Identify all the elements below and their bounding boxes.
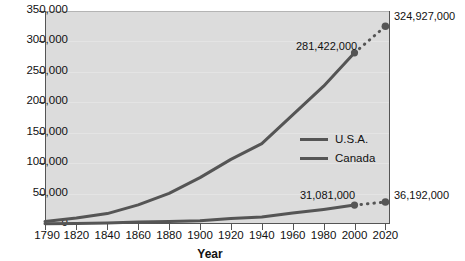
xtick-label-1920: 1920 bbox=[218, 229, 244, 241]
xtick-label-2020: 2020 bbox=[373, 229, 399, 241]
xtick-label-1900: 1900 bbox=[187, 229, 213, 241]
xtick-label-1940: 1940 bbox=[249, 229, 275, 241]
legend: U.S.A. Canada bbox=[300, 130, 375, 168]
annotation-usa-2020: 324,927,000 bbox=[394, 10, 455, 22]
xtick-label-1880: 1880 bbox=[156, 229, 182, 241]
annotation-canada-2020: 36,192,000 bbox=[394, 189, 449, 201]
legend-swatch-canada bbox=[300, 157, 328, 160]
ytick-label-250000: 250,000 bbox=[26, 64, 68, 76]
legend-item-usa: U.S.A. bbox=[300, 130, 375, 149]
ytick-label-50000: 50,000 bbox=[33, 186, 68, 198]
xtick-label-1820: 1820 bbox=[64, 229, 90, 241]
xtick-label-1960: 1960 bbox=[280, 229, 306, 241]
ytick-label-100000: 100,000 bbox=[26, 155, 68, 167]
annotation-canada-2000: 31,081,000 bbox=[300, 189, 355, 201]
gridline-350000 bbox=[46, 11, 389, 12]
legend-item-canada: Canada bbox=[300, 149, 375, 168]
xtick-label-1980: 1980 bbox=[311, 229, 337, 241]
ytick-label-300000: 300,000 bbox=[26, 33, 68, 45]
xtick-label-1860: 1860 bbox=[125, 229, 151, 241]
ytick-label-350000: 350,000 bbox=[26, 3, 68, 15]
x-axis-title: Year bbox=[0, 247, 420, 261]
xtick-label-1840: 1840 bbox=[95, 229, 121, 241]
gridline-250000 bbox=[46, 72, 389, 73]
xtick-label-1790: 1790 bbox=[34, 229, 60, 241]
annotation-usa-2000: 281,422,000 bbox=[296, 40, 357, 52]
ytick-label-150000: 150,000 bbox=[26, 125, 68, 137]
ytick-label-200000: 200,000 bbox=[26, 94, 68, 106]
legend-label-canada: Canada bbox=[335, 153, 375, 165]
population-growth-chart: 350,000 300,000 250,000 200,000 150,000 … bbox=[0, 0, 465, 261]
legend-swatch-usa bbox=[300, 138, 328, 141]
ytick-label-0: 0 bbox=[62, 216, 68, 228]
gridline-200000 bbox=[46, 102, 389, 103]
legend-label-usa: U.S.A. bbox=[335, 134, 368, 146]
xtick-label-2000: 2000 bbox=[342, 229, 368, 241]
